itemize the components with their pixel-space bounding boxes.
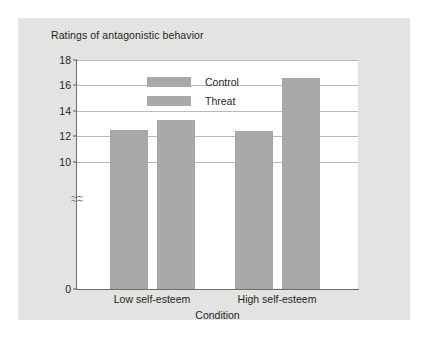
ytick-label-14: 14 (59, 105, 71, 117)
chart-figure: Ratings of antagonistic behavior 18 16 1… (18, 18, 410, 320)
legend-label-threat: Threat (205, 95, 235, 107)
ytick-mark-18 (73, 60, 77, 61)
legend-label-control: Control (205, 76, 239, 88)
y-axis-line (76, 60, 77, 289)
plot-area: 18 16 14 12 10 0 (77, 60, 358, 289)
gridline-18: 18 (77, 60, 358, 61)
ytick-mark-12 (73, 136, 77, 137)
xtick-label-high-self-esteem: High self-esteem (238, 293, 317, 305)
xtick-label-low-self-esteem: Low self-esteem (114, 293, 190, 305)
legend-entry-threat: Threat (147, 91, 239, 110)
chart-title: Ratings of antagonistic behavior (51, 29, 204, 41)
ytick-mark-14 (73, 110, 77, 111)
ytick-label-10: 10 (59, 156, 71, 168)
bar-low-threat (157, 120, 195, 289)
bar-low-control (110, 130, 148, 289)
ytick-label-16: 16 (59, 79, 71, 91)
x-axis-title: Condition (77, 309, 358, 321)
legend-swatch-control (147, 77, 191, 87)
legend-entry-control: Control (147, 72, 239, 91)
ytick-mark-10 (73, 161, 77, 162)
bar-high-control (235, 131, 273, 289)
ytick-label-0: 0 (65, 283, 71, 295)
ytick-label-12: 12 (59, 130, 71, 142)
chart-legend: Control Threat (147, 72, 239, 110)
ytick-mark-0 (73, 289, 77, 290)
gridline-0: 0 (77, 289, 358, 290)
axis-break-icon (70, 191, 84, 203)
ytick-mark-16 (73, 85, 77, 86)
legend-swatch-threat (147, 96, 191, 106)
ytick-label-18: 18 (59, 54, 71, 66)
bar-high-threat (282, 78, 320, 289)
